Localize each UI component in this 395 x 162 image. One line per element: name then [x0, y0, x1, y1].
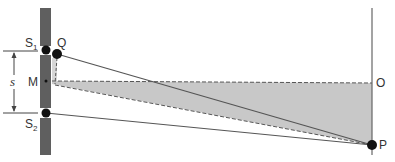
- label-s: s: [10, 74, 15, 89]
- label-m: M: [28, 75, 38, 89]
- arrowhead-up-icon: [12, 52, 17, 58]
- label-q: Q: [57, 36, 66, 50]
- slit-s1-dot: [42, 46, 51, 55]
- label-p: P: [379, 138, 387, 152]
- slit-s2-dot: [42, 109, 51, 118]
- barrier-top: [40, 8, 51, 46]
- shaded-path-difference-region: [52, 81, 372, 145]
- midpoint-m-dot: [45, 80, 48, 83]
- point-p-dot: [367, 140, 377, 150]
- label-s2: S2: [25, 117, 38, 133]
- label-o: O: [376, 76, 385, 90]
- barrier-bottom: [40, 118, 51, 155]
- arrowhead-down-icon: [12, 106, 17, 112]
- label-s1: S1: [25, 36, 38, 52]
- diagram-canvas: S1 Q s M S2 O P: [0, 0, 395, 162]
- double-slit-diagram: S1 Q s M S2 O P: [0, 0, 395, 162]
- point-q-dot: [52, 49, 62, 59]
